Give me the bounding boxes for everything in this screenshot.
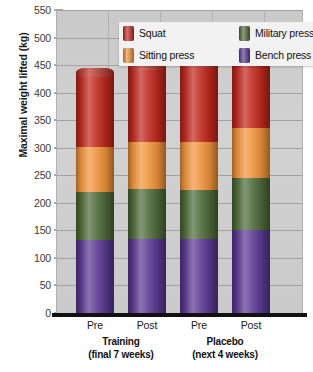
bar-segment-squat[interactable] xyxy=(128,65,166,142)
x-axis-line xyxy=(52,313,307,317)
bar-segment-bench-press[interactable] xyxy=(128,239,166,313)
group-label-sub: (next 4 weeks) xyxy=(165,349,285,362)
bar-segment-military-press[interactable] xyxy=(232,178,270,230)
y-tick-label-200: 200 xyxy=(17,197,51,209)
bar-segment-squat[interactable] xyxy=(76,72,114,146)
legend-swatch-sitting-press-icon xyxy=(123,48,134,63)
y-tick-label-300: 300 xyxy=(17,142,51,154)
bar-segment-bench-press[interactable] xyxy=(76,240,114,313)
bar-segment-military-press[interactable] xyxy=(76,192,114,240)
legend-item-bench-press: Bench press xyxy=(239,48,313,63)
legend-label-bench-press: Bench press xyxy=(255,49,311,61)
bar-segment-bench-press[interactable] xyxy=(180,239,218,313)
y-tick-label-50: 50 xyxy=(17,279,51,291)
legend-swatch-squat-icon xyxy=(123,26,134,41)
legend-label-sitting-press: Sitting press xyxy=(139,49,194,61)
x-tick-label-4-post: Post xyxy=(221,319,281,331)
group-label-sub: (final 7 weeks) xyxy=(61,349,181,362)
y-tick-label-100: 100 xyxy=(17,252,51,264)
y-tick-label-450: 450 xyxy=(17,59,51,71)
y-tick-label-400: 400 xyxy=(17,87,51,99)
bar-segment-military-press[interactable] xyxy=(128,189,166,239)
bar-segment-sitting-press[interactable] xyxy=(180,142,218,189)
legend-swatch-bench-press-icon xyxy=(239,48,250,63)
y-tick-label-500: 500 xyxy=(17,32,51,44)
y-tick-label-250: 250 xyxy=(17,169,51,181)
bar-segment-bench-press[interactable] xyxy=(232,230,270,313)
bar-segment-squat[interactable] xyxy=(180,64,218,142)
vertical-gridline-0 xyxy=(56,10,57,313)
bar-segment-sitting-press[interactable] xyxy=(232,128,270,178)
y-tick-label-0: 0 xyxy=(17,307,51,319)
y-tick-label-550: 550 xyxy=(17,4,51,16)
legend-item-military-press: Military press xyxy=(239,26,313,41)
legend-label-military-press: Military press xyxy=(255,27,313,39)
group-label-name: Placebo xyxy=(207,336,244,347)
bar-1-pre[interactable] xyxy=(76,10,114,313)
plot-area: Squat Military press Sitting press Bench… xyxy=(56,10,303,313)
y-tick-label-350: 350 xyxy=(17,114,51,126)
y-tick-label-150: 150 xyxy=(17,224,51,236)
bar-top-cap xyxy=(76,68,114,77)
group-label-placebo: Placebo(next 4 weeks) xyxy=(165,336,285,361)
bar-segment-sitting-press[interactable] xyxy=(128,142,166,189)
legend-item-sitting-press: Sitting press xyxy=(123,48,239,63)
legend-item-squat: Squat xyxy=(123,26,239,41)
legend-swatch-military-press-icon xyxy=(239,26,250,41)
chart-figure: Maximal weight lifted (kg) 0501001502002… xyxy=(0,0,313,372)
group-label-training: Training(final 7 weeks) xyxy=(61,336,181,361)
legend-label-squat: Squat xyxy=(139,27,165,39)
chart-legend: Squat Military press Sitting press Bench… xyxy=(119,22,313,66)
x-tick-label-3-pre: Pre xyxy=(169,319,229,331)
x-tick-label-2-post: Post xyxy=(117,319,177,331)
bar-segment-military-press[interactable] xyxy=(180,190,218,239)
bar-segment-sitting-press[interactable] xyxy=(76,147,114,192)
x-tick-label-1-pre: Pre xyxy=(65,319,125,331)
group-label-name: Training xyxy=(102,336,139,347)
